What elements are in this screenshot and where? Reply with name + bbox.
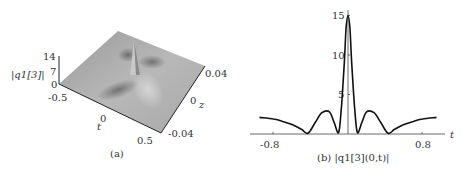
y-tick-15: 15 <box>332 10 345 21</box>
caption-b: (b) |q1[3](0,t)| <box>317 152 389 163</box>
z-axis-tick-0: 0 <box>190 95 196 106</box>
caption-a: (a) <box>110 148 124 159</box>
z-label: z <box>198 99 205 110</box>
z-value-label: |q1[3]| <box>11 69 45 81</box>
z-axis-tick-neg: -0.04 <box>168 128 194 139</box>
z-tick-14: 14 <box>43 51 56 62</box>
z-tick-0: 0 <box>51 79 57 90</box>
z-axis-tick-pos: 0.04 <box>205 68 227 79</box>
x-tick-0.8: 0.8 <box>415 139 431 150</box>
y-tick-10: 10 <box>332 50 345 61</box>
x-tick-neg-0.8: -0.8 <box>260 139 279 150</box>
y-tick-5: 5 <box>338 89 344 100</box>
t-tick-neg: -0.5 <box>48 92 67 103</box>
t-tick-pos: 0.5 <box>137 135 153 146</box>
x-label: t <box>450 129 455 140</box>
z-tick-7: 7 <box>50 66 56 77</box>
